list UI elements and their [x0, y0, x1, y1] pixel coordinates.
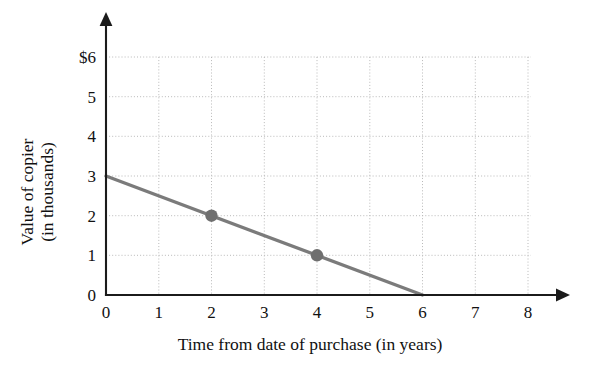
- y-tick-label-4: 4: [88, 127, 97, 146]
- y-tick-label-5: 5: [88, 88, 97, 107]
- x-axis-title: Time from date of purchase (in years): [178, 334, 443, 354]
- x-tick-label-3: 3: [260, 303, 269, 322]
- chart-container: $6 5 4 3 2 1 0 0 1 2 3 4 5 6 7 8 Time fr…: [0, 0, 599, 373]
- x-tick-label-1: 1: [155, 303, 164, 322]
- data-point-2-2: [205, 210, 217, 222]
- x-tick-label-8: 8: [524, 303, 533, 322]
- y-tick-label-1: 1: [88, 246, 97, 265]
- x-tick-label-5: 5: [366, 303, 375, 322]
- data-point-4-1: [311, 249, 323, 261]
- x-tick-label-2: 2: [207, 303, 216, 322]
- y-tick-label-6: $6: [79, 48, 96, 67]
- x-tick-label-4: 4: [313, 303, 322, 322]
- y-tick-label-2: 2: [88, 207, 97, 226]
- y-tick-label-0: 0: [88, 286, 97, 305]
- y-axis-title-line1: Value of copier: [17, 138, 37, 245]
- y-tick-label-3: 3: [88, 167, 97, 186]
- x-tick-label-0: 0: [102, 303, 111, 322]
- y-axis-title-line2: (in thousands): [37, 142, 57, 242]
- x-tick-label-7: 7: [471, 303, 480, 322]
- x-tick-label-6: 6: [418, 303, 427, 322]
- line-chart: $6 5 4 3 2 1 0 0 1 2 3 4 5 6 7 8 Time fr…: [0, 0, 599, 373]
